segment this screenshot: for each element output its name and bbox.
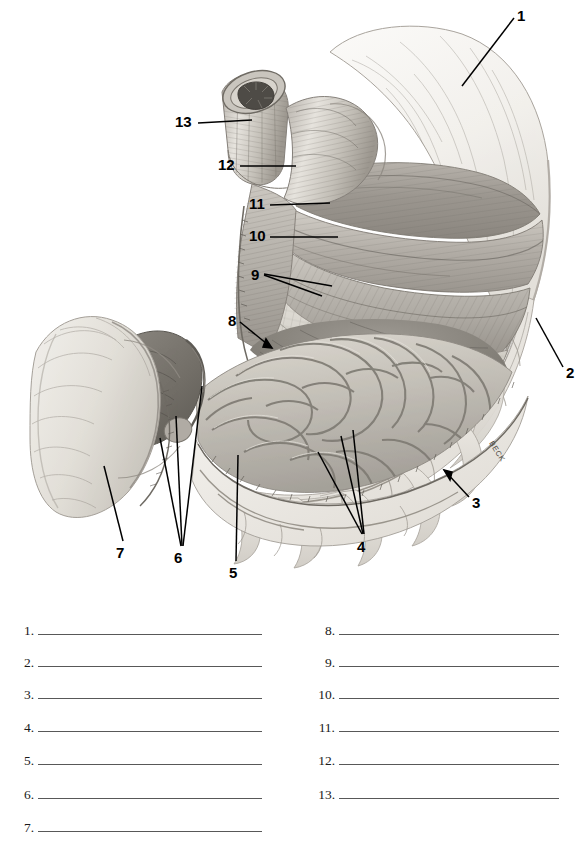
answer-row-10[interactable]: 10.	[301, 680, 559, 702]
answer-number-7: 7.	[0, 820, 38, 835]
answer-number-13: 13.	[301, 787, 339, 802]
answer-row-7[interactable]: 7.	[0, 813, 262, 835]
answer-line-6[interactable]	[38, 798, 262, 799]
answer-number-5: 5.	[0, 753, 38, 768]
callout-11: 11	[249, 196, 265, 211]
answer-row-4[interactable]: 4.	[0, 713, 262, 735]
answer-row-6[interactable]: 6.	[0, 780, 262, 802]
callout-5: 5	[229, 565, 237, 580]
callout-9: 9	[251, 267, 259, 282]
callout-8: 8	[228, 313, 236, 328]
callout-4: 4	[357, 539, 365, 554]
answer-line-1[interactable]	[38, 634, 262, 635]
answer-number-1: 1.	[0, 623, 38, 638]
callout-10: 10	[249, 228, 266, 243]
answer-line-11[interactable]	[339, 731, 559, 732]
answer-number-8: 8.	[301, 623, 339, 638]
answer-line-10[interactable]	[339, 698, 559, 699]
worksheet-page: BECK	[0, 0, 585, 853]
answer-line-3[interactable]	[38, 698, 262, 699]
answer-row-12[interactable]: 12.	[301, 746, 559, 768]
answer-number-4: 4.	[0, 720, 38, 735]
answer-row-8[interactable]: 8.	[301, 616, 559, 638]
answer-row-11[interactable]: 11.	[301, 713, 559, 735]
answer-row-5[interactable]: 5.	[0, 746, 262, 768]
answer-number-3: 3.	[0, 687, 38, 702]
answer-row-3[interactable]: 3.	[0, 680, 262, 702]
callout-2: 2	[566, 365, 574, 380]
answer-row-1[interactable]: 1.	[0, 616, 262, 638]
stomach-illustration: BECK	[0, 0, 585, 600]
answer-line-8[interactable]	[339, 634, 559, 635]
answer-line-5[interactable]	[38, 764, 262, 765]
answer-line-13[interactable]	[339, 798, 559, 799]
answer-line-2[interactable]	[38, 666, 262, 667]
answer-number-12: 12.	[301, 753, 339, 768]
answer-line-7[interactable]	[38, 831, 262, 832]
callout-6: 6	[174, 550, 182, 565]
answer-row-13[interactable]: 13.	[301, 780, 559, 802]
answer-number-10: 10.	[301, 687, 339, 702]
answer-row-2[interactable]: 2.	[0, 648, 262, 670]
answer-number-11: 11.	[301, 720, 339, 735]
answer-row-9[interactable]: 9.	[301, 648, 559, 670]
answer-number-2: 2.	[0, 655, 38, 670]
callout-12: 12	[218, 157, 235, 172]
answer-number-6: 6.	[0, 787, 38, 802]
callout-13: 13	[175, 114, 192, 129]
answer-line-9[interactable]	[339, 666, 559, 667]
answer-line-4[interactable]	[38, 731, 262, 732]
answer-line-12[interactable]	[339, 764, 559, 765]
callout-7: 7	[116, 545, 124, 560]
answer-number-9: 9.	[301, 655, 339, 670]
answer-blanks-section: 1. 2. 3. 4. 5. 6. 7. 8.	[0, 600, 585, 853]
callout-3: 3	[472, 495, 480, 510]
callout-1: 1	[517, 8, 525, 23]
